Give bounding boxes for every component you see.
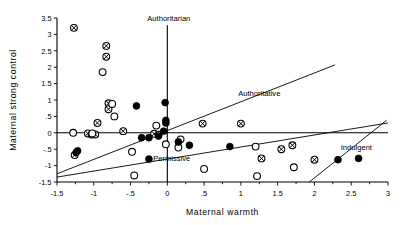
data-point-filled-circle [335,156,342,163]
data-point-crossed-circle [120,128,127,135]
data-point-open-circle [111,113,118,120]
data-point-filled-circle [162,99,169,106]
y-tick-label: 1 [47,96,51,105]
data-point-crossed-circle [71,24,78,31]
annotation-authoritative: Authoritative [238,89,280,98]
y-axis-title: Maternal strong control [8,49,18,151]
data-point-open-circle [290,164,297,171]
x-tick-label: 3 [386,189,390,198]
data-point-filled-circle [186,142,193,149]
y-tick-label: 2.5 [41,47,51,56]
x-tick-label: -1.5 [51,189,64,198]
data-point-crossed-circle [289,142,296,149]
x-tick-label: .5 [201,189,207,198]
x-tick-label: 1 [239,189,243,198]
annotation-permissive: Permissive [153,154,190,163]
data-point-filled-circle [146,156,153,163]
data-point-filled-circle [133,103,140,110]
data-point-filled-circle [226,143,233,150]
data-point-crossed-circle [237,120,244,127]
data-point-open-circle [201,165,208,172]
reference-line-permissive-lower-boundary [57,123,388,177]
plot-canvas: -1.5-1-.50.511.522.533.5-1.5-1-.50.511.5… [0,0,419,225]
data-point-crossed-circle [278,146,285,153]
data-points-group [70,24,362,179]
data-point-filled-circle [138,134,145,141]
x-tick-label: 2 [312,189,316,198]
x-tick-label: 2.5 [346,189,356,198]
y-tick-label: 0 [47,129,51,138]
data-point-open-circle [252,143,259,150]
annotation-authoritarian: Authoritarian [147,14,190,23]
y-tick-label: -1.5 [39,178,52,187]
y-tick-label: 1.5 [41,79,51,88]
x-tick-label: -1 [90,189,97,198]
tick-labels-group: -1.5-1-.50.511.522.533.5-1.5-1-.50.511.5… [39,14,390,198]
data-point-filled-circle [146,134,153,141]
data-point-filled-circle [160,128,167,135]
scatter-plot-figure: -1.5-1-.50.511.522.533.5-1.5-1-.50.511.5… [0,0,419,225]
data-point-open-circle [129,148,136,155]
data-point-filled-circle [175,139,182,146]
y-tick-label: 3.5 [41,14,51,23]
y-tick-label: .5 [45,112,51,121]
data-point-open-circle [153,122,160,129]
data-point-open-circle [89,130,96,137]
data-point-open-circle [99,69,106,76]
y-tick-label: 3 [47,30,51,39]
y-tick-label: -.5 [43,145,52,154]
data-point-open-circle [70,129,77,136]
data-point-crossed-circle [103,53,110,60]
data-point-open-circle [254,173,261,180]
data-point-crossed-circle [311,156,318,163]
x-tick-label: 0 [165,189,169,198]
data-point-open-circle [162,141,169,148]
data-point-filled-circle [73,149,80,156]
data-point-open-circle [109,101,116,108]
data-point-crossed-circle [258,155,265,162]
data-point-filled-circle [162,120,169,127]
data-point-crossed-circle [94,120,101,127]
y-tick-label: -1 [45,161,52,170]
x-axis-title: Maternal warmth [186,207,259,217]
annotation-indulgent: Indulgent [341,143,373,152]
data-point-crossed-circle [103,42,110,49]
x-tick-label: 1.5 [273,189,283,198]
y-tick-label: 2 [47,63,51,72]
x-tick-label: -.5 [126,189,135,198]
data-point-crossed-circle [199,120,206,127]
data-point-open-circle [131,172,138,179]
data-point-filled-circle [355,155,362,162]
